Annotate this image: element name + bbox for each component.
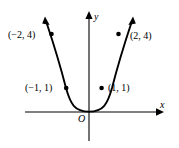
origin-label: O xyxy=(78,114,85,124)
point-marker-neg2-4 xyxy=(49,32,54,37)
point-label-neg2-4: (−2, 4) xyxy=(8,30,35,40)
point-label-1-1: (1, 1) xyxy=(108,83,130,93)
curve-left-arrow-icon xyxy=(42,17,49,26)
point-label-2-4: (2, 4) xyxy=(130,31,152,41)
point-marker-2-4 xyxy=(116,32,121,37)
point-label-neg1-1: (−1, 1) xyxy=(25,83,52,93)
graph-figure: (−2, 4) (2, 4) (−1, 1) (1, 1) y x O xyxy=(0,0,179,148)
coordinate-plane-svg xyxy=(0,0,179,148)
y-axis-arrow-icon xyxy=(85,11,92,19)
x-axis-label: x xyxy=(160,100,164,110)
point-marker-neg1-1 xyxy=(64,86,69,91)
curve-right-arrow-icon xyxy=(128,17,135,26)
y-axis-label: y xyxy=(94,12,98,22)
point-marker-1-1 xyxy=(99,86,104,91)
